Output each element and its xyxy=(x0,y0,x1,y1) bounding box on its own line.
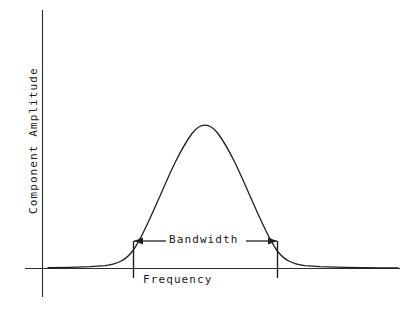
bandwidth-arrow-left-head xyxy=(134,238,143,245)
y-axis-title: Component Amplitude xyxy=(28,67,39,214)
x-axis-title: Frequency xyxy=(143,274,213,285)
plot-canvas xyxy=(0,0,410,311)
bandwidth-figure: Component Amplitude Frequency Bandwidth xyxy=(0,0,410,311)
spectrum-curve xyxy=(48,125,398,268)
bandwidth-annotation-label: Bandwidth xyxy=(167,234,241,245)
